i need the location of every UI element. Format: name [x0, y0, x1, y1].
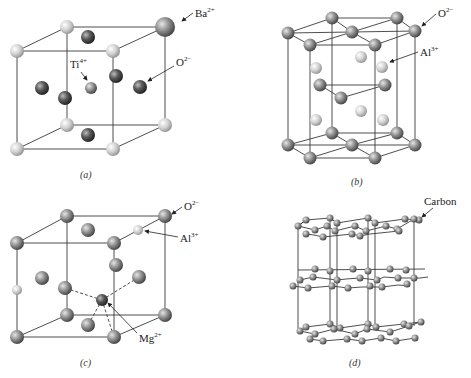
- caption-a: (a): [80, 169, 92, 181]
- magnesium-atom: [96, 294, 108, 306]
- label-mg: Mg2+: [139, 331, 162, 344]
- label-al: Al3+: [420, 45, 439, 58]
- label-ti: Ti4+: [70, 57, 87, 70]
- panel-c-spinel: O2− Al3+ Mg2+ (c): [10, 199, 199, 369]
- panel-d-graphite: Carbon (d): [290, 195, 457, 369]
- caption-b: (b): [351, 176, 363, 188]
- label-ba: Ba2+: [195, 6, 215, 19]
- label-o: O2−: [176, 55, 191, 68]
- caption-c: (c): [80, 357, 92, 369]
- label-carbon: Carbon: [424, 195, 457, 207]
- oxygen-atoms: [282, 12, 422, 165]
- panel-b-corundum: O2− Al3+ (b): [282, 6, 454, 188]
- caption-d: (d): [349, 357, 361, 369]
- mg-tetrahedral-bonds: [65, 277, 139, 337]
- carbon-atoms: [290, 215, 425, 345]
- panel-a-perovskite: Ba2+ Ti4+ O2− (a): [10, 6, 215, 181]
- oxygen-atoms: [10, 209, 172, 344]
- crystal-structures-figure: Ba2+ Ti4+ O2− (a): [0, 0, 471, 378]
- label-o: O2−: [438, 6, 453, 19]
- label-al: Al3+: [180, 231, 199, 244]
- label-o: O2−: [184, 199, 199, 212]
- barium-atom: [155, 17, 175, 37]
- titanium-atom: [85, 82, 97, 94]
